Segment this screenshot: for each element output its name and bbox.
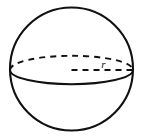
sphere-diagram-svg: r: [0, 0, 146, 138]
radius-label: r: [101, 58, 106, 70]
figure-background: [0, 0, 146, 138]
sphere-figure: r: [0, 0, 146, 138]
